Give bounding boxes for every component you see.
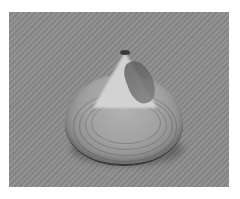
photo	[9, 12, 229, 187]
shell-umbo-tip	[120, 50, 130, 55]
growth-ring	[91, 102, 161, 144]
